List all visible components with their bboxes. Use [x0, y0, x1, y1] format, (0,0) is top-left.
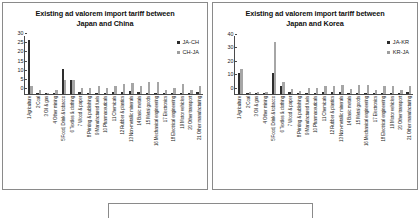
bar: [265, 92, 267, 94]
bar-group: [93, 36, 101, 94]
bar-group: [362, 36, 370, 94]
category-label-text: 4 Other mining: [52, 96, 57, 123]
bar-group: [169, 36, 177, 94]
bar: [182, 84, 184, 94]
category-label: 14 Basic metals: [345, 96, 353, 190]
bar-group: [43, 36, 51, 94]
category-label: 11 Chemicals: [110, 96, 118, 190]
category-label-text: 17 Electronics: [162, 96, 167, 122]
bar: [291, 89, 293, 94]
category-label-text: 15 Metal goods: [355, 96, 360, 125]
bar-group: [127, 36, 135, 94]
bar-group: [102, 36, 110, 94]
category-label: 2 Coal: [33, 96, 41, 190]
category-label: 8 Printing & publishing: [84, 96, 92, 190]
bar: [341, 85, 343, 94]
category-label: 7 Wood & paper: [286, 96, 294, 190]
category-label: 8 Printing & publishing: [294, 96, 302, 190]
bar-group: [303, 36, 311, 94]
bar-group: [337, 36, 345, 94]
category-label: 13 Non-metallic minerals: [127, 96, 135, 190]
category-label-text: 10 Pharmaceuticals: [313, 96, 318, 133]
y-axis-tick: 30: [228, 44, 235, 50]
bar-group: [295, 36, 303, 94]
bar-group: [244, 36, 252, 94]
charts-container: Existing ad valorem import tariff betwee…: [0, 0, 420, 190]
bar: [64, 80, 66, 93]
bar: [249, 92, 251, 94]
bar: [148, 82, 150, 94]
category-label-text: 7 Wood & paper: [288, 96, 293, 126]
bar: [30, 86, 32, 93]
category-label-text: 20 Other transport: [188, 96, 193, 130]
plot-area: JA-CH CH-JA 051015202530 1 Agriculture2 …: [3, 34, 207, 190]
category-label-text: 13 Non-metallic minerals: [128, 96, 133, 142]
category-label: 17 Electronics: [161, 96, 169, 190]
category-label: 10 Pharmaceuticals: [101, 96, 109, 190]
bar-group: [329, 36, 337, 94]
y-axis-tick: 20: [228, 58, 235, 64]
bar-group: [85, 36, 93, 94]
chart-title-line2: Japan and China: [13, 19, 197, 29]
y-axis-tick: 10: [18, 67, 25, 73]
bar-group: [371, 36, 379, 94]
category-label: 19 Motor vehicles: [177, 96, 185, 190]
category-label-text: 9 Manufactured fuels: [304, 96, 309, 135]
category-axis-labels: 1 Agriculture2 Coal3 Oil & gas4 Other mi…: [24, 96, 203, 190]
category-label-text: 12 Rubber & plastics: [120, 96, 125, 135]
bar: [173, 88, 175, 93]
bar-group: [278, 36, 286, 94]
category-label-text: 19 Motor vehicles: [179, 96, 184, 129]
bar: [157, 82, 159, 93]
category-label: 11 Chemicals: [320, 96, 328, 190]
category-label: 4 Other mining: [260, 96, 268, 190]
chart-title-line1: Existing ad valorem import tariff betwee…: [13, 9, 197, 19]
category-label: 12 Rubber & plastics: [118, 96, 126, 190]
chart-panel-japan-korea: Existing ad valorem import tariff betwee…: [212, 2, 418, 190]
category-label-text: 18 Electrical engineering: [171, 96, 176, 142]
category-label-text: 14 Basic metals: [137, 96, 142, 126]
category-label: 21 Other manufacturing: [404, 96, 412, 190]
bar: [400, 90, 402, 94]
bar: [324, 86, 326, 93]
category-label-text: 14 Basic metals: [347, 96, 352, 126]
bar: [190, 90, 192, 94]
category-label: 14 Basic metals: [135, 96, 143, 190]
category-label-text: 1 Agriculture: [27, 96, 32, 119]
category-label-text: 8 Printing & publishing: [86, 96, 91, 137]
category-label-text: 8 Printing & publishing: [296, 96, 301, 137]
bar-group: [396, 36, 404, 94]
bar-group: [60, 36, 68, 94]
bar-series-group: [25, 36, 203, 94]
bar: [114, 86, 116, 94]
bar: [409, 86, 411, 94]
bar-group: [345, 36, 353, 94]
bar: [392, 86, 394, 94]
bar: [350, 89, 352, 94]
category-label: 5 Food, Drink & tobacco: [59, 96, 67, 190]
bar: [47, 93, 49, 94]
bar: [123, 84, 125, 94]
bar: [165, 90, 167, 94]
bar-group: [161, 36, 169, 94]
category-label-text: 21 Other manufacturing: [196, 96, 201, 140]
bar-group: [135, 36, 143, 94]
category-label: 3 Oil & gas: [252, 96, 260, 190]
chart-title: Existing ad valorem import tariff betwee…: [213, 3, 417, 29]
y-axis-tick: 30: [18, 30, 25, 36]
category-label-text: 6 Textiles & clothing: [279, 96, 284, 133]
bar-group: [194, 36, 202, 94]
bar: [282, 82, 284, 94]
category-label: 1 Agriculture: [25, 96, 33, 190]
bar-group: [312, 36, 320, 94]
category-label: 18 Electrical engineering: [379, 96, 387, 190]
bar: [89, 88, 91, 93]
category-label-text: 20 Other transport: [398, 96, 403, 130]
category-label-text: 10 Pharmaceuticals: [103, 96, 108, 133]
category-label-text: 21 Other manufacturing: [406, 96, 411, 140]
y-axis-tick: 20: [18, 48, 25, 54]
bar-group: [68, 36, 76, 94]
bar: [299, 91, 301, 94]
category-label: 2 Coal: [243, 96, 251, 190]
bar: [375, 90, 377, 94]
